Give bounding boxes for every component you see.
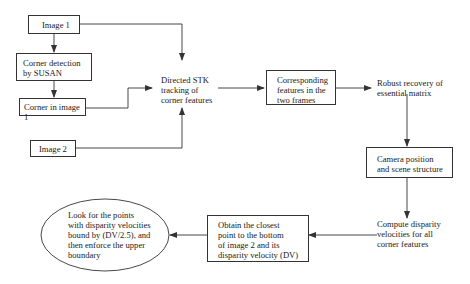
node-camera-position: Camera position and scene structure bbox=[366, 147, 453, 178]
edge-corner-in-image1-directed-stk bbox=[86, 88, 152, 108]
node-directed-stk: Directed STK tracking of corner features bbox=[161, 75, 225, 107]
edge-image1-directed-stk bbox=[80, 24, 182, 60]
node-obtain-closest: Obtain the closest point to the bottom o… bbox=[207, 215, 309, 262]
node-corner-detection: Corner detection by SUSAN bbox=[16, 53, 92, 81]
edge-image2-directed-stk bbox=[76, 108, 182, 148]
node-image2: Image 2 bbox=[30, 140, 76, 157]
node-compute-disparity: Compute disparity velocities for all cor… bbox=[377, 219, 467, 251]
node-corresponding: Corresponding features in the two frames bbox=[266, 70, 336, 105]
node-image1: Image 1 bbox=[28, 15, 80, 34]
node-corner-in-image1: Corner in image 1 bbox=[19, 98, 86, 116]
node-look-for-points: Look for the points with disparity veloc… bbox=[68, 210, 168, 262]
node-robust-recovery: Robust recovery of essential matrix bbox=[377, 78, 465, 100]
